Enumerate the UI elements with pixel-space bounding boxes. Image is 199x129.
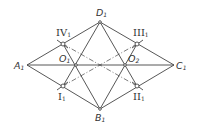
label-a1: A1 [14, 61, 24, 71]
label-d1: D1 [96, 8, 107, 18]
label-i1: I1 [58, 92, 66, 102]
point-b1-marker [99, 108, 102, 111]
label-ii1: II1 [133, 92, 145, 102]
point-o2-marker [124, 64, 127, 67]
point-ii1-marker [135, 84, 139, 88]
point-d1-marker [99, 21, 102, 24]
label-iv1: IV1 [56, 28, 71, 38]
rhombus-construction [0, 0, 199, 129]
label-o1: O1 [59, 54, 70, 64]
diagram-canvas: D1 B1 A1 C1 O1 O2 IV1 III1 I1 II1 [0, 0, 199, 129]
label-o2: O2 [128, 54, 139, 64]
label-iii1: III1 [133, 28, 149, 38]
label-c1: C1 [176, 61, 186, 71]
label-b1: B1 [95, 113, 105, 123]
point-o1-marker [75, 64, 78, 67]
point-i1-marker [61, 84, 65, 88]
point-iii1-marker [135, 42, 139, 46]
point-iv1-marker [61, 42, 65, 46]
